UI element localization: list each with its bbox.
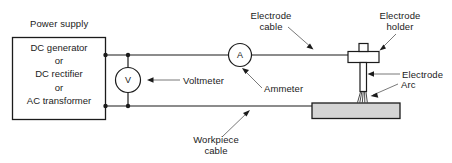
electrode-holder-tab xyxy=(359,44,368,52)
voltmeter-label: Voltmeter xyxy=(183,75,224,86)
workpiece-cable-label-line2: cable xyxy=(181,145,251,156)
power-supply-box-text: DC generator or DC rectifier or AC trans… xyxy=(13,41,105,107)
power-supply-line-1: DC generator xyxy=(13,41,105,54)
electrode-holder-body xyxy=(348,52,379,63)
electrode-cable-label-line2: cable xyxy=(240,21,302,32)
electrode-holder-label-line2: holder xyxy=(369,21,431,32)
leader-arrow-ammeter xyxy=(242,68,249,74)
arc-welding-diagram: Power supply DC generator or DC rectifie… xyxy=(0,0,452,163)
electrode-cable-label-line1: Electrode xyxy=(240,10,302,21)
power-supply-line-5: AC transformer xyxy=(13,94,105,107)
leader-ammeter xyxy=(244,70,262,88)
junction-dot-voltmeter-top xyxy=(126,53,130,57)
workpiece-plate xyxy=(312,103,400,119)
electrode-rod xyxy=(360,63,367,92)
ammeter-letter: A xyxy=(232,50,248,60)
arc-rays xyxy=(358,92,368,103)
leader-arrow-electrode xyxy=(368,71,375,76)
arc-label: Arc xyxy=(401,79,416,90)
electrode-holder-label: Electrode holder xyxy=(369,10,431,32)
leader-arrow-voltmeter xyxy=(147,77,154,82)
voltmeter-letter: V xyxy=(120,75,136,85)
electrode-holder-label-line1: Electrode xyxy=(369,10,431,21)
power-supply-line-3: DC rectifier xyxy=(13,67,105,80)
ammeter-label: Ammeter xyxy=(264,83,303,94)
workpiece-cable-label: Workpiece cable xyxy=(181,134,251,156)
power-supply-line-4: or xyxy=(13,81,105,94)
workpiece-cable-label-line1: Workpiece xyxy=(181,134,251,145)
leader-arrow-arc xyxy=(371,93,379,98)
electrode-cable-label: Electrode cable xyxy=(240,10,302,32)
power-supply-caption: Power supply xyxy=(30,18,88,29)
power-supply-line-2: or xyxy=(13,54,105,67)
junction-dot-voltmeter-bottom xyxy=(126,104,130,108)
